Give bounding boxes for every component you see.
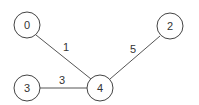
edge-2-4: 5 bbox=[110, 36, 160, 79]
edge-3-4: 3 bbox=[40, 74, 87, 88]
edge-weight: 1 bbox=[63, 41, 69, 53]
node-3: 3 bbox=[14, 75, 40, 101]
node-label: 4 bbox=[97, 82, 103, 94]
node-2: 2 bbox=[157, 13, 183, 39]
node-label: 0 bbox=[24, 19, 30, 31]
edge-weight: 3 bbox=[59, 74, 65, 86]
edge-0-4: 1 bbox=[36, 35, 91, 79]
node-label: 3 bbox=[24, 82, 30, 94]
node-label: 2 bbox=[167, 20, 173, 32]
graph-diagram: 1 3 5 0 3 4 2 bbox=[0, 0, 199, 105]
node-0: 0 bbox=[14, 12, 40, 38]
node-4: 4 bbox=[87, 75, 113, 101]
edge-weight: 5 bbox=[130, 43, 136, 55]
